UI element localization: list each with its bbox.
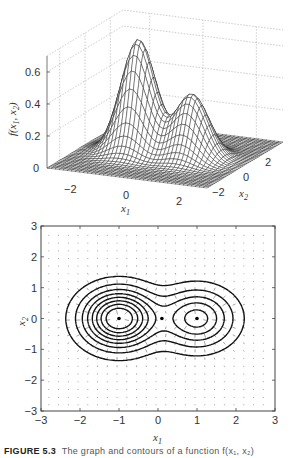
z-tick-0.2: 0.2 [25, 130, 40, 142]
x1-tick-labels: −3−2−10123 [35, 414, 278, 426]
z-tick-0.4: 0.4 [25, 98, 40, 110]
x2-tick-label: −3 [24, 405, 37, 417]
x2-tick-label: −2 [24, 374, 37, 386]
x2-tick-neg2: −2 [212, 186, 225, 198]
surface-plot: 0 0.2 0.4 0.6 −2 0 2 −2 0 2 x1 x2 f(x1, … [6, 10, 283, 217]
figure-number: FIGURE 5.3 [4, 446, 56, 456]
x2-axis-label-2d: x2 [15, 317, 30, 327]
x2-tick-label: 3 [31, 220, 37, 232]
z-tick-0: 0 [33, 162, 39, 174]
x2-tick-label: 2 [31, 251, 37, 263]
figure: 0 0.2 0.4 0.6 −2 0 2 −2 0 2 x1 x2 f(x1, … [0, 0, 296, 458]
x1-tick-0: 0 [123, 189, 129, 201]
z-axis-label: f(x1, x2) [6, 102, 21, 136]
caption-text: The graph and contours of a function f(x… [62, 446, 254, 456]
z-tick-0.6: 0.6 [25, 66, 40, 78]
x1-axis-label: x1 [120, 202, 130, 217]
figure-caption: FIGURE 5.3 The graph and contours of a f… [4, 446, 254, 456]
contour-plot: −3−2−10123 −3−2−10123 x1 x2 [15, 220, 278, 446]
contour-lines [66, 276, 245, 360]
surface-axes [47, 56, 50, 168]
x1-tick-label: 0 [155, 414, 161, 426]
surface-mesh [47, 40, 283, 188]
x2-tick-0: 0 [243, 171, 249, 183]
gradient-field [48, 235, 264, 406]
x1-tick-neg2: −2 [64, 183, 77, 195]
x1-tick-label: −2 [74, 414, 87, 426]
x1-tick-label: 1 [194, 414, 200, 426]
x1-tick-label: 3 [272, 414, 278, 426]
x1-tick-label: −1 [113, 414, 126, 426]
x2-tick-2: 2 [265, 156, 271, 168]
x2-tick-label: −1 [24, 343, 37, 355]
x1-tick-2: 2 [176, 195, 182, 207]
x1-axis-label-2d: x1 [152, 431, 162, 446]
x2-tick-label: 0 [31, 313, 37, 325]
x2-axis-label: x2 [238, 187, 248, 202]
x1-tick-label: 2 [233, 414, 239, 426]
x2-tick-label: 1 [31, 282, 37, 294]
